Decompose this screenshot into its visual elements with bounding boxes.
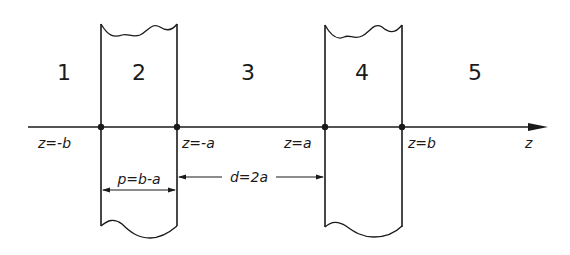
dimension-label-p: p=b-a [116,171,160,187]
dimension-label-d: d=2a [230,169,268,185]
diagram-svg: 1 2 3 4 5 z=-b z=-a z=a z=b z p=b-a d=2a [0,0,570,255]
boundary-label-minus-b: z=-b [37,135,71,151]
boundary-label-a: z=a [283,135,312,151]
arrowhead-left-icon [102,188,110,193]
arrowhead-right-icon [168,188,176,193]
z-axis [28,123,548,131]
dimension-p [102,188,176,193]
boundary-dot [322,124,328,130]
region-label-4: 4 [355,60,369,85]
slab-2 [101,24,177,238]
boundary-label-b: z=b [407,135,436,151]
region-label-3: 3 [241,60,255,85]
arrowhead-left-icon [178,175,186,180]
region-label-1: 1 [57,60,71,85]
region-label-5: 5 [468,60,482,85]
axis-arrow-icon [528,123,548,131]
slab-diagram: 1 2 3 4 5 z=-b z=-a z=a z=b z p=b-a d=2a [0,0,570,255]
region-label-2: 2 [132,60,146,85]
axis-label-z: z [524,135,533,151]
boundary-dot [98,124,104,130]
slab-4 [325,25,402,237]
boundary-label-minus-a: z=-a [181,135,215,151]
boundary-dot [174,124,180,130]
arrowhead-right-icon [316,175,324,180]
boundary-dot [399,124,405,130]
